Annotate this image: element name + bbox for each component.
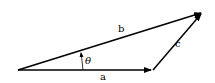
angle-arc (81, 53, 83, 70)
label-a: a (100, 71, 106, 82)
label-c: c (175, 38, 181, 49)
label-theta: θ (85, 55, 91, 66)
vector-b (18, 13, 201, 70)
vector-diagram: a b c θ (0, 0, 215, 83)
label-b: b (118, 23, 124, 34)
